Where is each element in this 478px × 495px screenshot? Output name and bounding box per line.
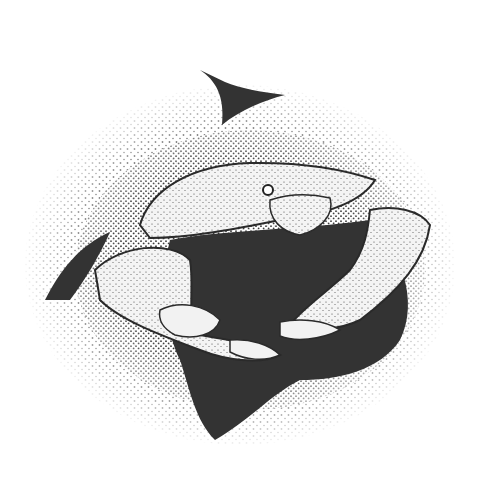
crab-stipple-illustration [0,0,478,495]
crab-eye [263,185,273,195]
crab-drawing [0,0,478,495]
